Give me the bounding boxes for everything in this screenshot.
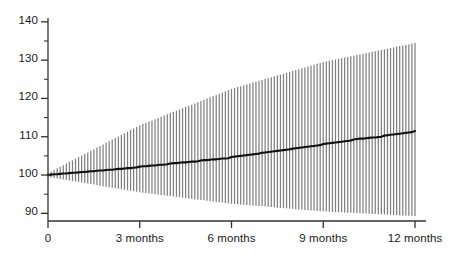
y-axis-tick-label: 120: [8, 90, 38, 102]
x-axis-ticks: [48, 221, 415, 228]
axes-group: [41, 18, 426, 228]
chart-plot-area: [0, 0, 454, 256]
y-axis-tick-label: 140: [8, 14, 38, 26]
x-axis-tick-label: 12 months: [370, 232, 454, 244]
y-axis-ticks: [41, 22, 48, 214]
x-axis-tick-label: 0: [3, 232, 93, 244]
y-axis-tick-label: 100: [8, 167, 38, 179]
y-axis-tick-label: 110: [8, 129, 38, 141]
x-axis-tick-label: 6 months: [187, 232, 277, 244]
y-axis-tick-label: 130: [8, 52, 38, 64]
x-axis-tick-label: 3 months: [95, 232, 185, 244]
x-axis-tick-label: 9 months: [278, 232, 368, 244]
y-axis-tick-label: 90: [8, 205, 38, 217]
error-bars-group: [48, 43, 415, 216]
chart-container: 90100110120130140 03 months6 months9 mon…: [0, 0, 454, 256]
